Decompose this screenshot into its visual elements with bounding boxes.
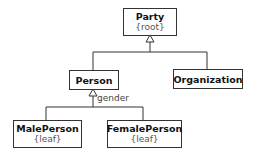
class-name: MalePerson bbox=[16, 123, 79, 134]
generalization-arrow-person bbox=[89, 89, 97, 96]
class-constraint: {leaf} bbox=[33, 134, 61, 145]
class-name: FemalePerson bbox=[107, 123, 183, 134]
class-organization[interactable]: Organization bbox=[173, 69, 243, 89]
class-constraint: {leaf} bbox=[130, 134, 158, 145]
discriminator-label: gender bbox=[97, 93, 129, 103]
class-party[interactable]: Party {root} bbox=[123, 8, 177, 36]
class-person[interactable]: Person bbox=[69, 70, 119, 90]
class-name: Person bbox=[75, 75, 112, 86]
class-name: Organization bbox=[173, 74, 242, 85]
class-femaleperson[interactable]: FemalePerson {leaf} bbox=[107, 120, 182, 148]
class-maleperson[interactable]: MalePerson {leaf} bbox=[13, 120, 82, 148]
class-name: Party bbox=[136, 11, 165, 22]
class-constraint: {root} bbox=[135, 22, 165, 33]
generalization-arrow-party bbox=[146, 35, 154, 42]
